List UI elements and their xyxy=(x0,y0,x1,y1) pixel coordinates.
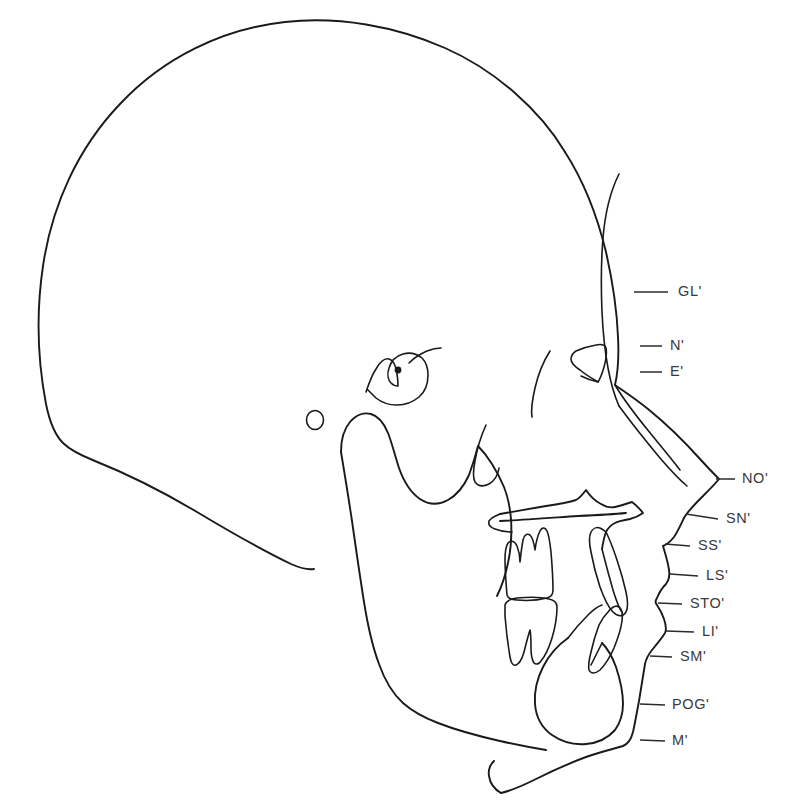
leader-line-pog xyxy=(640,704,665,705)
leader-line-sm xyxy=(650,656,672,657)
cephalometric-figure: GL' N' E' NO' SN' SS' xyxy=(0,0,786,803)
label-sm: SM' xyxy=(680,648,706,664)
label-li: LI' xyxy=(702,623,719,639)
leader-line-m xyxy=(640,740,665,741)
sella-point-dot xyxy=(395,367,402,374)
label-gl: GL' xyxy=(678,283,702,299)
label-sn: SN' xyxy=(726,510,751,526)
label-no: NO' xyxy=(742,470,768,486)
label-e: E' xyxy=(670,363,684,379)
label-pog: POG' xyxy=(672,696,709,712)
leader-line-li xyxy=(666,631,694,632)
label-ls: LS' xyxy=(706,567,728,583)
cephalometric-tracing-canvas: GL' N' E' NO' SN' SS' xyxy=(0,0,786,803)
label-ss: SS' xyxy=(698,537,722,553)
label-m: M' xyxy=(672,732,688,748)
leader-line-sto xyxy=(658,603,682,604)
label-n: N' xyxy=(670,337,684,353)
figure-background xyxy=(0,0,786,803)
label-sto: STO' xyxy=(690,595,725,611)
